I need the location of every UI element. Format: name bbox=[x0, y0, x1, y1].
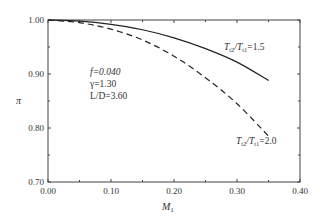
y-tick-label: 0.80 bbox=[28, 123, 44, 133]
y-tick-label: 1.00 bbox=[28, 15, 44, 25]
x-axis-label: M1 bbox=[161, 201, 174, 214]
curve-label-1-5: Tt2/Tt1=1.5 bbox=[224, 42, 265, 53]
curve-dashed-2-0 bbox=[48, 20, 269, 136]
chart: 0.000.100.200.300.400.700.800.901.00 M1 … bbox=[0, 0, 320, 221]
x-tick-label: 0.30 bbox=[229, 186, 245, 196]
curves bbox=[48, 20, 269, 136]
x-tick-label: 0.40 bbox=[292, 186, 308, 196]
y-tick-label: 0.70 bbox=[28, 177, 44, 187]
y-tick-label: 0.90 bbox=[28, 69, 44, 79]
y-axis-label: π bbox=[16, 95, 22, 106]
x-tick-label: 0.00 bbox=[40, 186, 56, 196]
x-tick-label: 0.10 bbox=[103, 186, 119, 196]
curve-label-2-0: Tt2/Tt1=2.0 bbox=[236, 136, 277, 147]
axis-ticks: 0.000.100.200.300.400.700.800.901.00 bbox=[28, 15, 308, 196]
param-f: f=0.040 bbox=[90, 67, 121, 77]
param-ld: L/D=3.60 bbox=[90, 91, 128, 101]
x-tick-label: 0.20 bbox=[166, 186, 182, 196]
param-gamma: γ=1.30 bbox=[89, 79, 116, 89]
